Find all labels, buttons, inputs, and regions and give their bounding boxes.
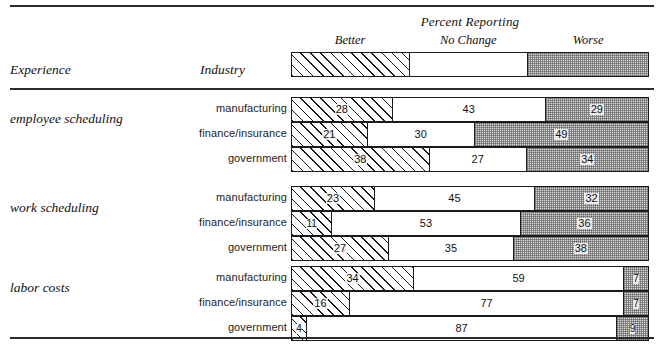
industry-label: finance/insurance bbox=[140, 216, 287, 228]
bar-value-worse: 49 bbox=[554, 129, 568, 140]
bar-segment-worse: 49 bbox=[474, 123, 648, 146]
bar-value-better: 38 bbox=[353, 154, 367, 165]
bar-segment-no-change: 59 bbox=[413, 267, 623, 290]
bar-value-worse: 7 bbox=[633, 274, 639, 284]
bar-value-no-change: 27 bbox=[471, 154, 485, 165]
legend-swatch-no-change bbox=[409, 53, 526, 76]
table-row: manufacturing 23 45 32 bbox=[0, 186, 664, 211]
industry-label: manufacturing bbox=[140, 102, 287, 114]
column-header-experience: Experience bbox=[10, 62, 71, 78]
figure-stacked-bar-chart: Percent Reporting Better No Change Worse… bbox=[0, 0, 664, 349]
legend-labels: Better No Change Worse bbox=[291, 33, 649, 48]
table-row: finance/insurance 21 30 49 bbox=[0, 122, 664, 147]
stacked-bar: 11 53 36 bbox=[291, 211, 649, 236]
bar-value-better: 28 bbox=[335, 104, 349, 115]
bar-value-no-change: 87 bbox=[454, 323, 468, 334]
stacked-bar: 16 77 7 bbox=[291, 291, 649, 316]
bar-segment-no-change: 45 bbox=[374, 187, 534, 210]
bar-value-no-change: 77 bbox=[479, 298, 493, 309]
bar-value-worse: 29 bbox=[590, 104, 604, 115]
bar-segment-better: 28 bbox=[292, 98, 392, 121]
bar-value-no-change: 30 bbox=[414, 129, 428, 140]
industry-label: finance/insurance bbox=[140, 127, 287, 139]
industry-label: manufacturing bbox=[140, 191, 287, 203]
bar-segment-no-change: 77 bbox=[349, 292, 623, 315]
bar-value-no-change: 43 bbox=[462, 104, 476, 115]
bar-value-worse: 38 bbox=[574, 243, 588, 254]
industry-label: government bbox=[140, 321, 287, 333]
legend-key-bar bbox=[291, 52, 649, 77]
legend-label-no-change: No Change bbox=[409, 33, 527, 48]
bar-segment-worse: 36 bbox=[520, 212, 648, 235]
table-row: finance/insurance 16 77 7 bbox=[0, 291, 664, 316]
bar-segment-better: 16 bbox=[292, 292, 349, 315]
legend-label-better: Better bbox=[291, 33, 409, 48]
legend-swatch-better bbox=[292, 53, 409, 76]
stacked-bar: 23 45 32 bbox=[291, 186, 649, 211]
industry-label: manufacturing bbox=[140, 271, 287, 283]
bar-segment-better: 11 bbox=[292, 212, 331, 235]
bar-segment-worse: 34 bbox=[526, 148, 648, 171]
bar-segment-better: 27 bbox=[292, 237, 388, 260]
table-row: government 38 27 34 bbox=[0, 147, 664, 172]
bar-value-no-change: 53 bbox=[419, 218, 433, 229]
bar-segment-better: 38 bbox=[292, 148, 429, 171]
rule-under-header bbox=[10, 88, 654, 90]
bar-segment-no-change: 43 bbox=[392, 98, 545, 121]
table-row: manufacturing 28 43 29 bbox=[0, 97, 664, 122]
table-row: government 27 35 38 bbox=[0, 236, 664, 261]
stacked-bar: 28 43 29 bbox=[291, 97, 649, 122]
bar-segment-worse: 38 bbox=[513, 237, 648, 260]
bar-segment-no-change: 27 bbox=[429, 148, 526, 171]
bar-segment-better: 34 bbox=[292, 267, 413, 290]
bar-value-no-change: 59 bbox=[511, 273, 525, 284]
industry-label: government bbox=[140, 241, 287, 253]
chart-title: Percent Reporting bbox=[291, 14, 649, 30]
stacked-bar: 21 30 49 bbox=[291, 122, 649, 147]
table-row: manufacturing 34 59 7 bbox=[0, 266, 664, 291]
bar-value-better: 11 bbox=[306, 219, 316, 229]
bar-segment-worse: 29 bbox=[545, 98, 648, 121]
bar-value-no-change: 45 bbox=[447, 193, 461, 204]
industry-label: finance/insurance bbox=[140, 296, 287, 308]
bar-segment-no-change: 53 bbox=[331, 212, 520, 235]
bar-value-better: 4 bbox=[296, 324, 302, 334]
legend-label-worse: Worse bbox=[527, 33, 649, 48]
stacked-bar: 27 35 38 bbox=[291, 236, 649, 261]
table-row: finance/insurance 11 53 36 bbox=[0, 211, 664, 236]
bar-segment-better: 23 bbox=[292, 187, 374, 210]
bar-segment-no-change: 35 bbox=[388, 237, 513, 260]
bar-value-worse: 7 bbox=[633, 299, 639, 309]
bar-segment-worse: 7 bbox=[623, 267, 648, 290]
bar-value-better: 27 bbox=[333, 243, 347, 254]
stacked-bar: 34 59 7 bbox=[291, 266, 649, 291]
bar-value-worse: 9 bbox=[630, 324, 636, 334]
bar-value-worse: 32 bbox=[584, 193, 598, 204]
bar-value-better: 23 bbox=[326, 193, 340, 204]
rule-top bbox=[10, 5, 654, 7]
bar-segment-worse: 7 bbox=[623, 292, 648, 315]
column-header-industry: Industry bbox=[200, 62, 245, 78]
bar-segment-no-change: 30 bbox=[367, 123, 474, 146]
legend-swatch-worse bbox=[527, 53, 648, 76]
bar-value-no-change: 35 bbox=[444, 243, 458, 254]
bar-value-better: 34 bbox=[345, 273, 359, 284]
bar-value-worse: 36 bbox=[577, 218, 591, 229]
bar-segment-better: 21 bbox=[292, 123, 367, 146]
industry-label: government bbox=[140, 152, 287, 164]
stacked-bar: 38 27 34 bbox=[291, 147, 649, 172]
bar-segment-worse: 32 bbox=[534, 187, 648, 210]
bar-value-worse: 34 bbox=[580, 154, 594, 165]
rule-bottom bbox=[10, 337, 654, 339]
bar-value-better: 21 bbox=[322, 129, 336, 140]
bar-value-better: 16 bbox=[313, 298, 327, 309]
